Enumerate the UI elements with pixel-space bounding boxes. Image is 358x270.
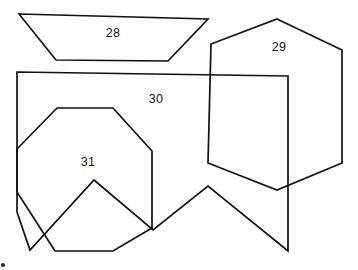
- shape-29-label: 29: [272, 40, 287, 54]
- shape-30-label: 30: [149, 92, 164, 106]
- shape-28-label: 28: [106, 26, 121, 40]
- shape-31-label: 31: [81, 155, 96, 169]
- corner-mark-dot: [1, 263, 5, 267]
- shape-31-octagon[interactable]: [17, 108, 152, 251]
- diagram-canvas: 28 29 30 31: [0, 0, 358, 270]
- shapes-svg: 28 29 30 31: [0, 0, 358, 270]
